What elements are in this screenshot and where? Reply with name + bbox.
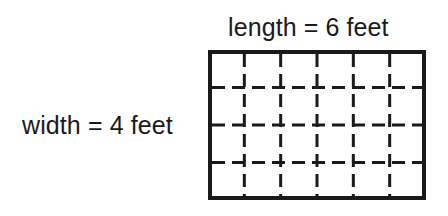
length-label: length = 6 feet — [228, 15, 389, 40]
rectangle-grid — [208, 50, 426, 200]
grid-lines-group — [212, 54, 422, 196]
width-label: width = 4 feet — [22, 113, 173, 138]
rectangle-grid-svg — [208, 50, 426, 200]
area-model-figure: length = 6 feet width = 4 feet — [0, 0, 448, 216]
